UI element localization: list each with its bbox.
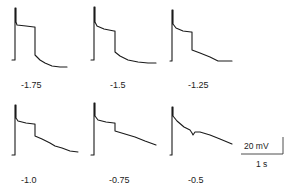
panel-label-4: -1.0	[21, 175, 37, 185]
voltage-trace-figure	[0, 0, 287, 187]
trace-panel-6	[170, 107, 232, 155]
trace-panel-4	[12, 105, 78, 155]
scale-voltage-label: 20 mV	[244, 141, 269, 151]
scale-time-label: 1 s	[256, 159, 267, 169]
trace-panel-5	[91, 103, 156, 155]
panel-label-1: -1.75	[21, 80, 42, 90]
trace-panel-3	[170, 10, 232, 61]
panel-label-2: -1.5	[110, 80, 126, 90]
panel-label-3: -1.25	[188, 80, 209, 90]
panel-label-6: -0.5	[188, 175, 204, 185]
trace-panel-1	[12, 8, 67, 67]
trace-panel-2	[91, 7, 156, 63]
panel-label-5: -0.75	[109, 175, 130, 185]
